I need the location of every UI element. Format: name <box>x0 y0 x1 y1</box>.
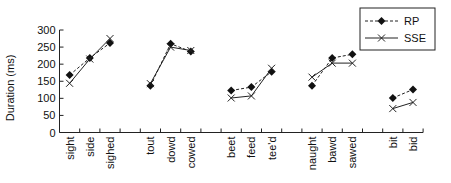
x-category-label: bawd <box>326 137 338 163</box>
chart-canvas: 050100150200250300 sightsidesighedtoutdo… <box>0 0 451 183</box>
duration-chart: 050100150200250300 sightsidesighedtoutdo… <box>0 0 451 183</box>
x-category-label: naught <box>306 137 318 171</box>
x-category-label: sawed <box>346 137 358 169</box>
y-tick-label: 0 <box>49 127 55 139</box>
y-tick-label: 100 <box>37 92 55 104</box>
y-tick-label: 250 <box>37 41 55 53</box>
diamond-marker-icon <box>389 94 397 102</box>
x-category-label: bid <box>407 137 419 152</box>
series-line <box>150 47 190 84</box>
legend-label-rp: RP <box>404 15 419 27</box>
x-category-label: beet <box>225 137 237 158</box>
x-category-label: cowed <box>185 137 197 169</box>
y-tick-label: 200 <box>37 58 55 70</box>
series-line <box>393 90 413 99</box>
x-category-label: sight <box>64 137 76 160</box>
y-tick-label: 50 <box>43 109 55 121</box>
x-category-label: sighed <box>104 137 116 169</box>
x-category-label: tout <box>144 137 156 155</box>
diamond-marker-icon <box>66 71 74 79</box>
x-category-label: side <box>84 137 96 157</box>
diamond-marker-icon <box>409 85 417 93</box>
diamond-marker-icon <box>348 50 356 58</box>
diamond-marker-icon <box>227 86 235 94</box>
y-axis-title: Duration (ms) <box>4 55 16 122</box>
y-axis: 050100150200250300 <box>37 24 63 139</box>
x-category-label: feed <box>245 137 257 158</box>
x-marker-icon <box>66 80 73 87</box>
x-axis: sightsidesighedtoutdowdcowedbeetfeedtee'… <box>60 129 424 171</box>
diamond-marker-icon <box>106 39 114 47</box>
y-tick-label: 300 <box>37 24 55 36</box>
diamond-marker-icon <box>247 83 255 91</box>
diamond-marker-icon <box>187 48 195 56</box>
y-tick-label: 150 <box>37 75 55 87</box>
legend: RP SSE <box>360 8 435 50</box>
x-marker-icon <box>389 105 396 112</box>
x-marker-icon <box>309 74 316 81</box>
x-category-label: bit <box>387 137 399 149</box>
series-line <box>312 63 352 77</box>
x-marker-icon <box>410 99 417 106</box>
x-category-label: tee'd <box>266 137 278 161</box>
legend-label-sse: SSE <box>404 32 426 44</box>
series-line <box>150 44 190 86</box>
x-category-label: dowd <box>165 137 177 163</box>
diamond-marker-icon <box>308 82 316 90</box>
